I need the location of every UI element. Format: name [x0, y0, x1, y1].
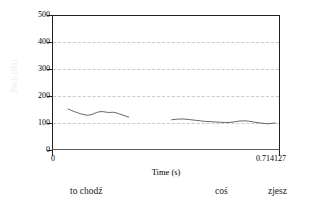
y-tick-label-500: 500 — [0, 11, 50, 19]
x-axis-title: Time (s) — [52, 168, 280, 177]
pitch-contour-figure: Pitch (Hz) 500 400 300 200 100 0 0 0.714… — [0, 0, 312, 212]
y-tick-label-200: 200 — [0, 92, 50, 100]
transcription-tier: to chodź coś zjesz — [0, 186, 312, 206]
tier-word-2: coś — [215, 186, 228, 197]
y-tick-label-0: 0 — [0, 146, 50, 154]
pitch-contour-segment-2 — [172, 119, 276, 124]
x-tick-label-end: 0.714127 — [256, 155, 286, 163]
x-tick-label-start: 0 — [51, 155, 55, 163]
y-tick-label-100: 100 — [0, 119, 50, 127]
tier-word-3: zjesz — [268, 186, 287, 197]
y-tick-label-300: 300 — [0, 65, 50, 73]
pitch-contour-layer — [52, 15, 280, 150]
y-tick-label-400: 400 — [0, 38, 50, 46]
pitch-contour-segment-1 — [68, 109, 129, 117]
tier-word-1: to chodź — [70, 186, 102, 197]
